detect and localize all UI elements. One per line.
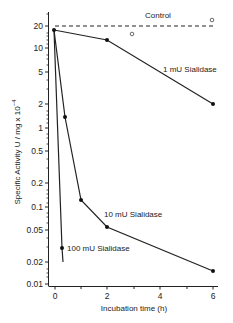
control-point-3h [130, 32, 134, 36]
y-tick-10: 10 [34, 43, 44, 53]
y-tick-0.02: 0.02 [26, 257, 43, 267]
series-100mU-label: 100 mU Sialidase [67, 244, 130, 253]
x-tick-4: 4 [158, 291, 163, 301]
series-10mU-label: 10 mU Sialidase [104, 210, 163, 219]
y-tick-1: 1 [38, 123, 43, 133]
y-tick-0.05: 0.05 [26, 225, 43, 235]
point-10mU-1h [79, 198, 83, 202]
x-tick-6: 6 [211, 291, 216, 301]
control-label: Control [145, 11, 171, 20]
y-axis-label-exponent: −4 [11, 99, 17, 107]
y-tick-0.01: 0.01 [26, 279, 43, 289]
x-tick-2: 2 [105, 291, 110, 301]
series-1mU-label: 1 mU Sialidase [163, 65, 217, 74]
y-tick-0.5: 0.5 [31, 146, 43, 156]
y-tick-0.1: 0.1 [31, 202, 43, 212]
point-10mU-2h [105, 225, 109, 229]
y-tick-labels: 20 10 5 2 1 0.5 0.2 0.1 0.05 0.02 0.01 [26, 21, 43, 289]
y-tick-20: 20 [34, 21, 44, 31]
svg-text:Specific Activity U / mg x 1: Specific Activity U / mg x 10−4 [11, 99, 22, 205]
y-tick-0.2: 0.2 [31, 178, 43, 188]
point-100mU-0.33h [60, 246, 64, 250]
y-axis-label-text: Specific Activity U / mg x 10 [13, 106, 22, 205]
x-axis-label: Incubation time (h) [101, 304, 168, 313]
x-tick-labels: 0 2 4 6 [53, 291, 216, 301]
point-start [52, 28, 56, 32]
chart: 20 10 5 2 1 0.5 0.2 0.1 0.05 0.02 0.01 0… [0, 0, 233, 323]
y-tick-5: 5 [38, 67, 43, 77]
point-1mU-6h [211, 102, 215, 106]
point-10mU-6h [211, 269, 215, 273]
control-point-6h [210, 18, 214, 22]
x-tick-0: 0 [53, 291, 58, 301]
y-tick-2: 2 [38, 99, 43, 109]
point-10mU-0.5h [63, 115, 67, 119]
y-axis-label: Specific Activity U / mg x 10−4 [11, 99, 22, 205]
point-1mU-2h [105, 38, 109, 42]
